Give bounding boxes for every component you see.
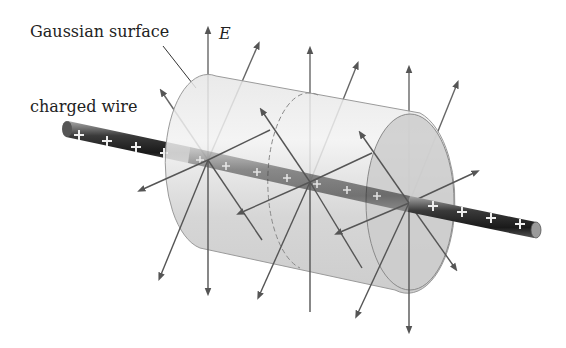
gaussian-surface-label: Gaussian surface [30, 22, 169, 41]
charged-wire-label: charged wire [30, 97, 137, 116]
gauss-law-diagram [0, 0, 566, 348]
electric-field-label: E [219, 24, 231, 43]
